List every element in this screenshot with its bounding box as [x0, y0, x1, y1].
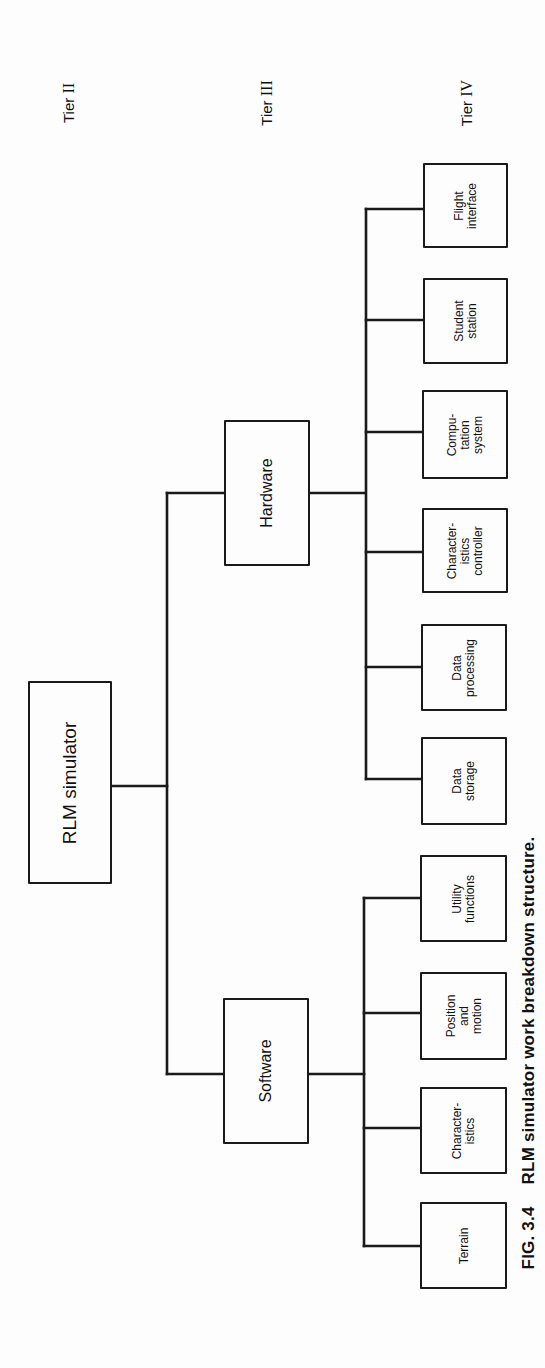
- node-label-line: Student: [453, 300, 466, 341]
- tier-numeral: III: [258, 80, 275, 96]
- node-label-line: station: [466, 300, 479, 341]
- root-node-rlm-simulator: RLM simulator: [28, 681, 112, 884]
- node-label-line: system: [471, 413, 484, 456]
- node-flight-interface: Flightinterface: [423, 163, 508, 248]
- caption-number: FIG. 3.4: [519, 1206, 538, 1269]
- tier-word: Tier: [60, 98, 77, 123]
- node-computation-system: Compu-tationsystem: [422, 390, 508, 479]
- node-label-line: controller: [471, 522, 484, 579]
- node-utility-functions: Utilityfunctions: [420, 855, 507, 942]
- node-label-line: istics: [464, 1102, 477, 1159]
- node-label: Hardware: [258, 458, 275, 527]
- figure-caption: FIG. 3.4RLM simulator work breakdown str…: [520, 803, 538, 1303]
- node-label-line: storage: [464, 761, 477, 801]
- node-data-processing: Dataprocessing: [421, 624, 507, 711]
- node-label-line: Character-: [451, 1102, 464, 1159]
- node-characteristics-controller: Character-isticscontroller: [422, 508, 508, 593]
- tier-label-iv: Tier IV: [456, 68, 478, 138]
- node-label-line: and: [457, 995, 470, 1038]
- node-student-station: Studentstation: [423, 278, 508, 364]
- node-label-line: Data: [451, 638, 464, 696]
- tier-numeral: IV: [458, 80, 475, 97]
- node-label: Software: [257, 1039, 274, 1102]
- node-label-line: Flight: [453, 182, 466, 228]
- node-label-line: Utility: [451, 874, 464, 922]
- caption-text: RLM simulator work breakdown structure.: [519, 837, 538, 1185]
- node-label-line: Data: [451, 761, 464, 801]
- node-label-line: motion: [470, 995, 483, 1038]
- node-terrain: Terrain: [420, 1202, 507, 1289]
- node-data-storage: Datastorage: [421, 737, 507, 825]
- node-label: RLM simulator: [60, 721, 81, 843]
- tier-numeral: II: [60, 83, 77, 94]
- node-label-line: istics: [459, 522, 472, 579]
- node-label-line: tation: [459, 413, 472, 456]
- node-label-line: processing: [464, 638, 477, 696]
- node-label-line: Terrain: [457, 1227, 470, 1264]
- node-position-and-motion: Positionandmotion: [420, 972, 507, 1060]
- node-hardware: Hardware: [224, 420, 310, 566]
- tier-label-iii: Tier III: [256, 70, 278, 136]
- tier-label-ii: Tier II: [58, 70, 80, 136]
- node-label-line: functions: [464, 874, 477, 922]
- node-software: Software: [223, 998, 309, 1144]
- tier-word: Tier: [458, 101, 475, 126]
- node-characteristics: Character-istics: [420, 1087, 507, 1174]
- tier-word: Tier: [258, 100, 275, 125]
- node-label-line: Position: [444, 995, 457, 1038]
- node-label-line: interface: [466, 182, 479, 228]
